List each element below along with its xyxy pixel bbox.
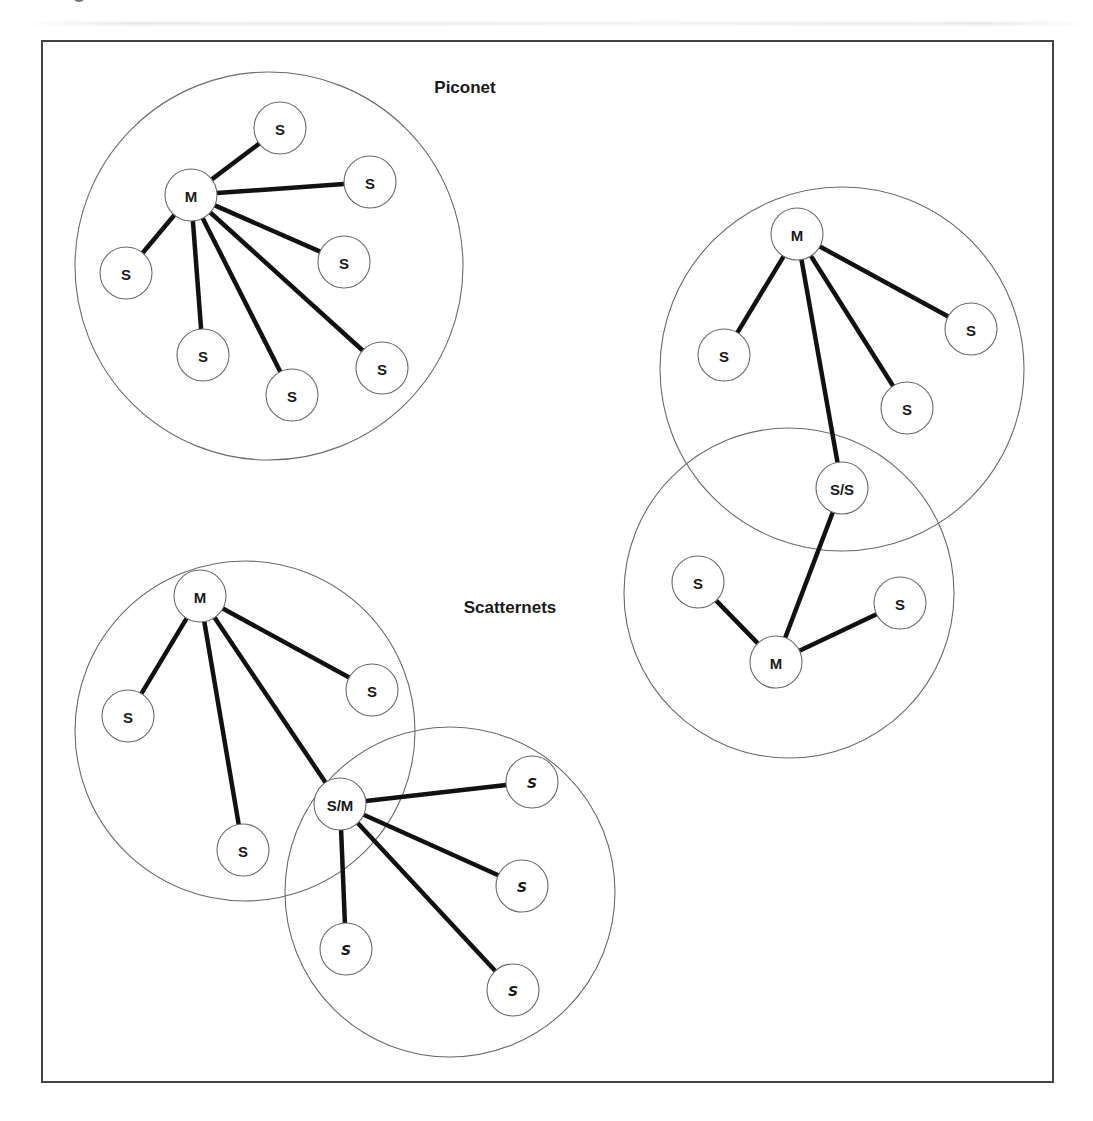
node-label: M — [194, 589, 207, 606]
link-r-m2-r-s5 — [800, 614, 877, 651]
link-l-sm-l-s5 — [364, 815, 499, 876]
node-label: S — [902, 401, 912, 418]
node-slave-r-s3: S — [881, 382, 933, 434]
node-slave-l-s5: S — [496, 860, 548, 912]
node-slave-r-s1: S — [698, 329, 750, 381]
node-slave-p-s1: S — [254, 102, 306, 154]
node-label: S — [238, 843, 248, 860]
piconet-title: Piconet — [434, 78, 496, 97]
node-label: S — [275, 121, 285, 138]
scatternets-title: Scatternets — [464, 598, 557, 617]
node-label: S — [719, 348, 729, 365]
node-slave-l-s4: S — [506, 756, 558, 808]
node-label: S — [508, 983, 518, 999]
link-p-m-p-s5 — [193, 221, 201, 329]
link-r-m2-r-s4 — [716, 601, 758, 644]
node-label: S — [339, 255, 349, 272]
node-slave-l-s7: S — [487, 964, 539, 1016]
node-label: S — [198, 348, 208, 365]
node-label: M — [791, 227, 804, 244]
node-label: S — [966, 322, 976, 339]
node-label: S — [517, 879, 527, 895]
node-master-r-m1: M — [771, 208, 823, 260]
node-label: S/S — [830, 481, 854, 498]
node-label: S — [341, 942, 351, 958]
link-r-m1-r-s2 — [820, 247, 948, 317]
link-r-ss-r-m2 — [785, 512, 833, 637]
node-label: S — [287, 388, 297, 405]
node-label: M — [770, 655, 783, 672]
link-l-sm-l-s6 — [341, 830, 345, 923]
node-master-r-m2: M — [750, 636, 802, 688]
node-label: S/M — [327, 797, 354, 814]
node-label: S — [123, 709, 133, 726]
link-r-m1-r-s1 — [737, 256, 783, 332]
link-p-m-p-s1 — [212, 144, 259, 180]
node-slave-p-s5: S — [177, 329, 229, 381]
node-bridge-r-ss: S/S — [816, 462, 868, 514]
node-label: S — [377, 361, 387, 378]
link-l-m-l-s3 — [204, 622, 238, 825]
link-l-m-l-sm — [215, 618, 326, 783]
node-slave-l-s3: S — [217, 824, 269, 876]
link-r-m1-r-s3 — [811, 256, 893, 386]
node-master-p-m: M — [165, 169, 217, 221]
node-master-l-m: M — [174, 570, 226, 622]
link-l-m-l-s1 — [141, 618, 186, 693]
node-label: S — [895, 596, 905, 613]
link-p-m-p-s4 — [143, 215, 175, 253]
node-slave-l-s2: S — [346, 664, 398, 716]
link-p-m-p-s2 — [217, 184, 344, 193]
node-label: S — [121, 266, 131, 283]
node-label: S — [367, 683, 377, 700]
node-slave-r-s2: S — [945, 303, 997, 355]
node-slave-l-s6: S — [320, 923, 372, 975]
network-nodes: MSSSSSSSMSSSS/MSSSSMSSSS/SSSM — [100, 102, 997, 1016]
node-label: S — [365, 175, 375, 192]
node-slave-r-s4: S — [672, 556, 724, 608]
bluetooth-network-diagram: MSSSSSSSMSSSS/MSSSSMSSSS/SSSM Piconet Sc… — [0, 0, 1093, 1121]
node-slave-r-s5: S — [874, 577, 926, 629]
node-label: S — [693, 575, 703, 592]
node-slave-p-s4: S — [100, 247, 152, 299]
node-slave-p-s7: S — [356, 342, 408, 394]
node-slave-l-s1: S — [102, 690, 154, 742]
node-bridge-l-sm: S/M — [314, 778, 366, 830]
node-slave-p-s2: S — [344, 156, 396, 208]
scatternet-left-range-circle-2 — [285, 727, 615, 1057]
node-label: M — [185, 188, 198, 205]
node-label: S — [527, 775, 537, 791]
link-l-sm-l-s4 — [366, 785, 506, 801]
node-slave-p-s3: S — [318, 236, 370, 288]
link-l-m-l-s2 — [223, 609, 349, 678]
node-slave-p-s6: S — [266, 369, 318, 421]
